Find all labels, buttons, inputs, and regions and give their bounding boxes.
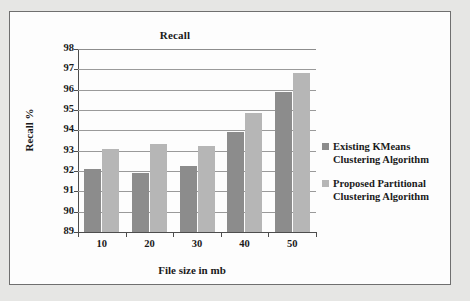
bar-50-series1 — [293, 73, 310, 232]
y-tick-mark — [74, 49, 78, 50]
x-axis-title: File size in mb — [68, 264, 316, 276]
chart-frame: Recall Recall % 98979695949392919089 102… — [9, 11, 451, 285]
gridline — [78, 90, 316, 91]
y-tick-label: 91 — [52, 185, 74, 196]
x-tick-label: 10 — [78, 238, 126, 249]
legend-entry-0: Existing KMeans Clustering Algorithm — [322, 140, 450, 166]
legend-label: Existing KMeans Clustering Algorithm — [333, 140, 450, 166]
y-tick-label: 93 — [52, 145, 74, 156]
legend-swatch-icon — [322, 143, 329, 150]
x-axis-tick-labels: 1020304050 — [78, 238, 317, 254]
x-tick-mark — [126, 233, 127, 237]
y-tick-label: 95 — [52, 104, 74, 115]
bar-20-series1 — [150, 144, 167, 232]
plot-area — [78, 49, 316, 232]
y-axis-tick-labels: 98979695949392919089 — [50, 49, 74, 233]
chart-figure: Recall Recall % 98979695949392919089 102… — [0, 0, 470, 301]
y-tick-mark — [74, 151, 78, 152]
legend-label: Proposed Partitional Clustering Algorith… — [333, 177, 450, 203]
x-axis-line — [78, 232, 317, 233]
x-tick-mark — [268, 233, 269, 237]
y-tick-label: 89 — [52, 226, 74, 237]
y-tick-label: 96 — [52, 84, 74, 95]
bar-10-series1 — [102, 149, 119, 232]
x-tick-label: 30 — [173, 238, 221, 249]
chart-legend: Existing KMeans Clustering AlgorithmProp… — [322, 140, 450, 214]
bar-40-series0 — [227, 132, 244, 232]
gridline — [78, 49, 316, 50]
y-tick-label: 92 — [52, 165, 74, 176]
x-tick-label: 50 — [268, 238, 316, 249]
y-tick-mark — [74, 191, 78, 192]
y-tick-mark — [74, 212, 78, 213]
y-tick-mark — [74, 130, 78, 131]
bar-10-series0 — [84, 169, 101, 232]
legend-swatch-icon — [322, 180, 329, 187]
y-tick-mark — [74, 110, 78, 111]
y-tick-mark — [74, 69, 78, 70]
legend-entry-1: Proposed Partitional Clustering Algorith… — [322, 177, 450, 203]
chart-title: Recall — [10, 29, 340, 41]
x-tick-mark — [78, 233, 79, 237]
bar-50-series0 — [275, 92, 292, 232]
x-tick-mark — [316, 233, 317, 237]
y-tick-label: 98 — [52, 43, 74, 54]
x-tick-label: 40 — [221, 238, 269, 249]
bar-30-series1 — [198, 146, 215, 232]
gridline — [78, 69, 316, 70]
x-tick-mark — [173, 233, 174, 237]
y-tick-mark — [74, 171, 78, 172]
x-tick-mark — [221, 233, 222, 237]
y-axis-title: Recall % — [23, 85, 35, 175]
x-tick-label: 20 — [126, 238, 174, 249]
y-tick-mark — [74, 90, 78, 91]
y-tick-label: 94 — [52, 124, 74, 135]
bar-20-series0 — [132, 173, 149, 232]
bar-30-series0 — [180, 166, 197, 232]
bar-40-series1 — [245, 113, 262, 232]
y-tick-label: 97 — [52, 63, 74, 74]
y-tick-label: 90 — [52, 206, 74, 217]
